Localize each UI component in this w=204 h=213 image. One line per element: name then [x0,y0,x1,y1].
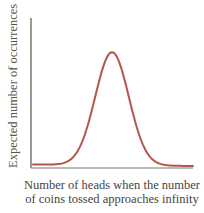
x-axis-label: Number of heads when the number of coins… [24,178,200,206]
x-axis-label-line1: Number of heads when the number [24,178,200,192]
x-axis-label-line2: of coins tossed approaches infinity [24,192,200,206]
y-axis-label: Expected number of occurrences [6,18,20,168]
distribution-curve [33,52,193,166]
